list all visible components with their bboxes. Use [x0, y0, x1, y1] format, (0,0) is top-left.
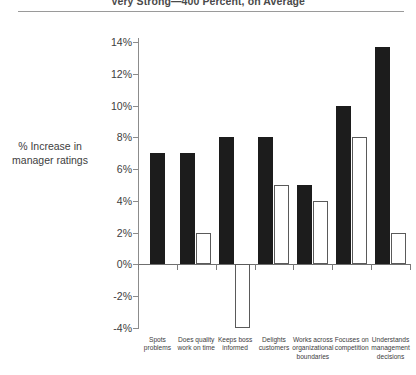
plot-area: 14%12%10%8%6%4%2%0%-2%-4%	[138, 42, 410, 328]
y-tick-label: -4%	[113, 322, 132, 334]
bar-dark	[180, 153, 195, 264]
bar-group	[255, 42, 294, 328]
y-tick-label: 4%	[117, 195, 132, 207]
bar-dark	[297, 185, 312, 264]
x-label-line: decisions	[365, 353, 416, 361]
bar-light	[196, 233, 211, 265]
x-label-line: Understands	[365, 336, 416, 344]
x-label-line: management	[365, 344, 416, 352]
y-tick-label: 0%	[117, 258, 132, 270]
bar-light	[313, 201, 328, 265]
bar-light	[274, 185, 289, 264]
y-tick-label: 12%	[111, 68, 132, 80]
bar-light	[391, 233, 406, 265]
bar-light	[352, 137, 367, 264]
bar-dark	[219, 137, 234, 264]
bar-group	[177, 42, 216, 328]
y-tick-label: 14%	[111, 36, 132, 48]
y-tick-mark	[133, 328, 139, 329]
bar-group	[216, 42, 255, 328]
y-tick-label: 2%	[117, 227, 132, 239]
bar-group	[293, 42, 332, 328]
bar-group	[371, 42, 410, 328]
bar-light	[235, 264, 250, 328]
x-label-line: boundaries	[287, 353, 338, 361]
bar-dark	[150, 153, 165, 264]
bar-group	[138, 42, 177, 328]
x-category-label: Understandsmanagementdecisions	[365, 336, 416, 361]
bar-chart-figure: Very Strong—400 Percent, on Average % In…	[0, 0, 416, 375]
y-tick-label: 6%	[117, 163, 132, 175]
x-tick-mark	[410, 264, 411, 270]
bar-dark	[336, 106, 351, 265]
y-tick-label: 8%	[117, 131, 132, 143]
y-tick-label: -2%	[113, 290, 132, 302]
y-tick-label: 10%	[111, 100, 132, 112]
bar-dark	[375, 47, 390, 265]
y-axis-title: % Increase in manager ratings	[4, 140, 96, 167]
bar-group	[332, 42, 371, 328]
title-divider	[18, 11, 404, 12]
chart-title: Very Strong—400 Percent, on Average	[0, 0, 416, 7]
bar-dark	[258, 137, 273, 264]
